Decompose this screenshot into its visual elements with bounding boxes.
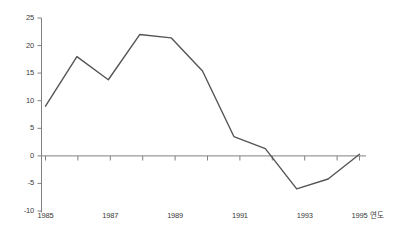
x-tick-label: 1991	[220, 212, 260, 220]
x-tick-label: 1993	[285, 212, 325, 220]
y-tick-label: 15	[8, 69, 34, 77]
x-tick-label: 1985	[26, 212, 66, 220]
x-axis-ticks	[46, 156, 360, 161]
data-line-series-0	[46, 35, 360, 189]
y-tick-label: 25	[8, 14, 34, 22]
y-tick-label: 20	[8, 42, 34, 50]
y-tick-label: 10	[8, 97, 34, 105]
y-tick-label: 5	[8, 124, 34, 132]
x-tick-label: 1987	[90, 212, 130, 220]
x-tick-label: 1989	[155, 212, 195, 220]
line-chart: 25 20 15 10 5 0 -5 -10 1985 1987 1989 19…	[0, 0, 395, 244]
y-tick-label: 0	[8, 152, 34, 160]
y-tick-label: -5	[8, 179, 34, 187]
y-axis-ticks	[38, 18, 42, 211]
chart-plot-area	[0, 0, 395, 244]
x-axis-title: 연도	[370, 212, 384, 220]
